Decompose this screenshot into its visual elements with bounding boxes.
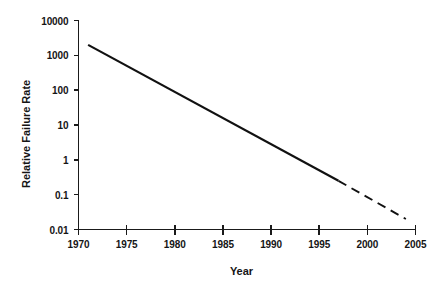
x-tick-label: 2005 [405, 239, 427, 250]
data-series-group [88, 45, 406, 219]
axes-group [79, 21, 416, 230]
x-tick-label: 1985 [212, 239, 234, 250]
chart-container: 1000010001001010.10.01 19701975198019851… [0, 0, 443, 289]
y-tick-label: 10000 [0, 15, 69, 26]
y-tick-label: 1 [0, 154, 69, 165]
series-line-observed [88, 45, 338, 181]
y-axis-title: Relative Failure Rate [20, 80, 32, 188]
x-tick-label: 1995 [308, 239, 330, 250]
x-tick-label: 1975 [116, 239, 138, 250]
x-tick-label: 1990 [260, 239, 282, 250]
x-tick-label: 1970 [68, 239, 90, 250]
y-tick-label: 0.1 [0, 189, 69, 200]
x-tick-label: 2000 [356, 239, 378, 250]
series-line-projected [338, 181, 405, 219]
y-tick-label: 0.01 [0, 224, 69, 235]
y-tick-label: 10 [0, 120, 69, 131]
y-tick-label: 1000 [0, 50, 69, 61]
x-axis-title: Year [0, 265, 443, 277]
y-tick-label: 100 [0, 85, 69, 96]
x-tick-label: 1980 [164, 239, 186, 250]
